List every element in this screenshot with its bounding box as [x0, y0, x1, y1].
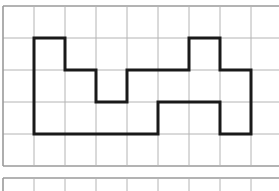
rectilinear-shape-outline: [34, 38, 251, 134]
grid-paper-bottom: [3, 178, 279, 191]
grid-paper-top: [3, 6, 279, 166]
grid-figure: [0, 0, 279, 191]
